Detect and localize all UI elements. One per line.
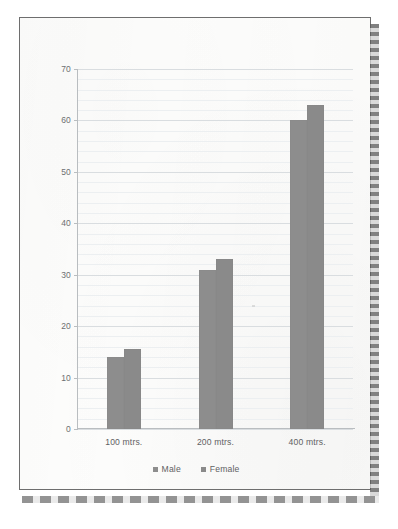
y-axis-tick-label: 0 xyxy=(66,424,71,434)
y-axis-tick-label: 30 xyxy=(61,270,71,280)
bar-female-1 xyxy=(216,259,233,429)
x-axis-label-1: 200 mtrs. xyxy=(170,437,262,447)
scanned-page: 010203040506070 100 mtrs.200 mtrs.400 mt… xyxy=(19,17,371,490)
bar-female-0 xyxy=(124,349,141,429)
x-axis-label-2: 400 mtrs. xyxy=(261,437,353,447)
y-axis-tick-label: 50 xyxy=(61,167,71,177)
legend-item-male: Male xyxy=(153,464,181,474)
y-axis-tick-label: 70 xyxy=(61,64,71,74)
bar-female-2 xyxy=(307,105,324,429)
y-axis-tick-label: 60 xyxy=(61,115,71,125)
bar-male-0 xyxy=(107,357,124,429)
gridline-major xyxy=(78,429,353,430)
gridline-minor xyxy=(78,100,353,101)
gridline-major xyxy=(78,69,353,70)
page-perforation-icon xyxy=(22,496,379,503)
legend-swatch-icon xyxy=(153,467,158,472)
legend-label: Male xyxy=(162,464,181,474)
bar-male-1 xyxy=(199,270,216,429)
y-axis-tick-mark xyxy=(74,69,78,70)
spiral-binding-icon xyxy=(370,24,379,496)
scan-artifact-speck xyxy=(252,305,255,307)
gridline-minor xyxy=(78,90,353,91)
chart-legend: MaleFemale xyxy=(20,464,372,474)
x-axis-label-0: 100 mtrs. xyxy=(78,437,170,447)
y-axis-tick-mark xyxy=(74,275,78,276)
y-axis-line xyxy=(77,69,78,429)
y-axis-tick-mark xyxy=(74,429,78,430)
plot-area: 010203040506070 xyxy=(78,69,353,429)
bar-chart: 010203040506070 100 mtrs.200 mtrs.400 mt… xyxy=(20,18,370,489)
y-axis-tick-label: 40 xyxy=(61,218,71,228)
y-axis-tick-mark xyxy=(74,326,78,327)
y-axis-tick-mark xyxy=(74,172,78,173)
legend-label: Female xyxy=(210,464,240,474)
y-axis-tick-mark xyxy=(74,378,78,379)
bar-male-2 xyxy=(290,120,307,429)
legend-item-female: Female xyxy=(201,464,240,474)
y-axis-tick-label: 10 xyxy=(61,373,71,383)
y-axis-tick-mark xyxy=(74,120,78,121)
gridline-minor xyxy=(78,79,353,80)
y-axis-tick-mark xyxy=(74,223,78,224)
legend-swatch-icon xyxy=(201,467,206,472)
y-axis-tick-label: 20 xyxy=(61,321,71,331)
